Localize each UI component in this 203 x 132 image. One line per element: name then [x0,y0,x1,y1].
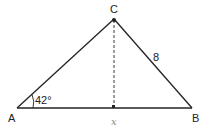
vertex-label-c: C [110,3,118,15]
angle-arc-a [32,95,34,109]
angle-label-a: 42° [35,94,52,106]
right-angle-marker [112,105,115,108]
vertex-label-a: A [8,112,16,124]
side-cb [114,19,192,108]
triangle-diagram: C 8 42° A B x [0,0,203,132]
vertex-label-b: B [192,112,199,124]
vertex-c-dot [112,18,116,22]
base-label-x: x [111,116,117,127]
side-label-cb: 8 [153,51,159,63]
side-ac [17,19,114,108]
